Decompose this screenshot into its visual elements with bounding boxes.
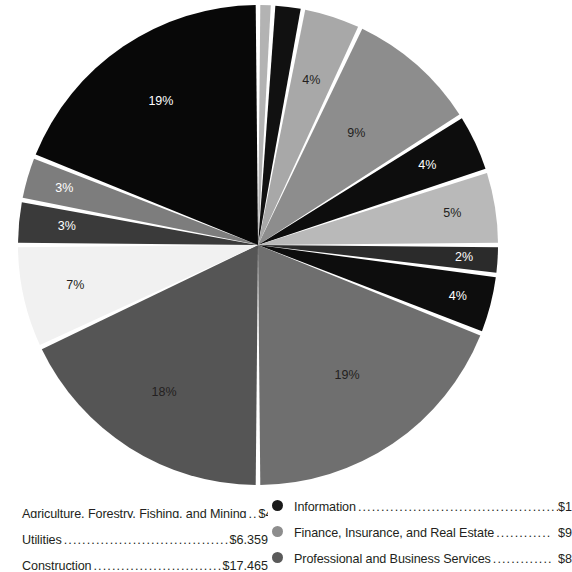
legend-dot-leader: .................................. [92,559,223,570]
legend-item-label: Finance, Insurance, and Real Estate [294,526,494,540]
pie-slice-percent-label: 18% [152,385,177,399]
legend-item-label: Agriculture, Forestry, Fishing, and Mini… [22,507,246,518]
pie-slice-percent-label: 2% [455,250,473,264]
legend-item-label: Construction [22,559,92,570]
pie-slice-percent-label: 4% [449,289,467,303]
legend-swatch-slot [0,518,22,544]
pie-slice-percent-label: 4% [418,158,436,172]
pie-chart-svg: 4%9%4%5%2%4%19%18%7%3%3%19% [0,0,531,492]
pie-chart-plot-area: 4%9%4%5%2%4%19%18%7%3%3%19% [0,0,531,492]
legend-column-right: Information ............................… [272,492,572,570]
legend-color-swatch-circle-icon [272,500,283,511]
legend-item[interactable]: Agriculture, Forestry, Fishing, and Mini… [0,492,268,518]
pie-slice-percent-label: 19% [148,94,173,108]
legend-swatch-slot [272,544,294,570]
legend-dot-leader: ........................................… [62,533,230,544]
pie-slice-percent-label: 7% [66,278,84,292]
legend-item[interactable]: Information ............................… [272,492,572,518]
legend-swatch-slot [0,492,22,518]
legend-item[interactable]: Utilities ..............................… [0,518,268,544]
legend-item-value: $6,359 [229,533,268,544]
legend-item-value: $17,465 [222,559,268,570]
pie-slice-percent-label: 9% [347,126,365,140]
pie-slice-percent-label: 19% [334,368,359,382]
legend-item-value: $1 [558,500,572,514]
legend-dot-leader: ............ [494,526,558,540]
legend-item[interactable]: Finance, Insurance, and Real Estate ....… [272,518,572,544]
legend-item-value: $9 [558,526,572,540]
legend-color-swatch-circle-icon [272,526,283,537]
legend-item[interactable]: Professional and Business Services .....… [272,544,572,570]
legend-item-value: $4,481 [258,507,268,518]
pie-slice-percent-label: 5% [443,206,461,220]
legend-dot-leader: ............. [491,552,558,566]
legend-swatch-slot [272,492,294,518]
legend-dot-leader: ...... [246,507,258,518]
legend-color-swatch-circle-icon [272,552,283,563]
legend-item-value: $8 [558,552,572,566]
chart-legend: Agriculture, Forestry, Fishing, and Mini… [0,492,531,572]
legend-column-left: Agriculture, Forestry, Fishing, and Mini… [0,492,268,570]
pie-slice-percent-label: 3% [58,219,76,233]
legend-swatch-slot [272,518,294,544]
legend-dot-leader: ........................................… [356,500,558,514]
legend-swatch-slot [0,544,22,570]
legend-item[interactable]: Construction ...........................… [0,544,268,570]
legend-item-label: Information [294,500,356,514]
pie-slice-percent-label: 3% [55,181,73,195]
pie-slice-group [18,5,498,485]
pie-slice-percent-label: 4% [302,73,320,87]
legend-item-label: Utilities [22,533,62,544]
legend-item-label: Professional and Business Services [294,552,491,566]
